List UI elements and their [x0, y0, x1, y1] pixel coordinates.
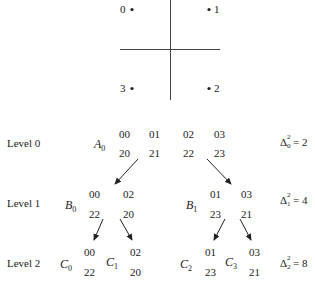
b0-cell: 00 — [89, 189, 100, 200]
delta-level-0: Δ20= 2 — [280, 137, 308, 148]
arrow-a0-b1 — [207, 159, 231, 184]
a0-cell: 22 — [183, 148, 194, 159]
arrow-b1-c3 — [240, 219, 251, 240]
point-label-3: 3 — [120, 83, 126, 94]
arrow-b0-c0 — [94, 219, 103, 240]
a0-cell: 03 — [214, 129, 225, 140]
diagram-lines — [0, 0, 315, 284]
level-2-label: Level 2 — [7, 258, 40, 269]
set-b1-label: B1 — [186, 199, 197, 214]
point-1-dot — [207, 8, 210, 11]
set-c1-label: C1 — [106, 256, 118, 271]
a0-cell: 02 — [183, 129, 194, 140]
c0-cell: 00 — [84, 247, 95, 258]
arrow-b0-c1 — [120, 219, 132, 240]
level-1-label: Level 1 — [7, 198, 40, 209]
delta-level-2: Δ22= 8 — [280, 258, 308, 269]
b0-cell: 20 — [123, 209, 134, 220]
b1-cell: 01 — [210, 189, 221, 200]
b0-cell: 22 — [89, 209, 100, 220]
set-c2-label: C2 — [180, 258, 192, 273]
c3-cell: 03 — [249, 247, 260, 258]
c2-cell: 23 — [205, 267, 216, 278]
b1-cell: 23 — [210, 209, 221, 220]
set-c0-label: C0 — [60, 258, 72, 273]
b1-cell: 03 — [241, 189, 252, 200]
c1-cell: 20 — [130, 267, 141, 278]
set-c3-label: C3 — [225, 256, 237, 271]
point-label-1: 1 — [214, 4, 220, 15]
a0-cell: 01 — [149, 129, 160, 140]
point-label-0: 0 — [120, 4, 126, 15]
point-2-dot — [207, 87, 210, 90]
set-b0-label: B0 — [65, 199, 76, 214]
point-3-dot — [130, 87, 133, 90]
c0-cell: 22 — [84, 267, 95, 278]
c1-cell: 02 — [130, 247, 141, 258]
arrow-a0-b0 — [115, 159, 138, 184]
point-0-dot — [130, 8, 133, 11]
c3-cell: 21 — [249, 267, 260, 278]
delta-level-1: Δ21= 4 — [280, 195, 308, 206]
b0-cell: 02 — [123, 189, 134, 200]
c2-cell: 01 — [205, 247, 216, 258]
a0-cell: 23 — [214, 148, 225, 159]
level-0-label: Level 0 — [7, 138, 40, 149]
arrow-b1-c2 — [214, 219, 225, 240]
a0-cell: 00 — [119, 129, 130, 140]
set-a0-label: A0 — [94, 138, 105, 153]
a0-cell: 21 — [149, 148, 160, 159]
a0-cell: 20 — [119, 148, 130, 159]
point-label-2: 2 — [214, 83, 220, 94]
b1-cell: 21 — [241, 209, 252, 220]
